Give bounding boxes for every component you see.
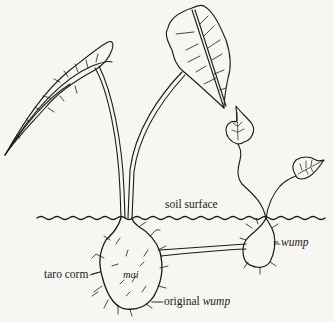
mai-label: mai bbox=[123, 270, 139, 281]
original-wump-term: wump bbox=[203, 295, 230, 307]
soil-surface-label: soil surface bbox=[165, 199, 218, 211]
taro-corm-label: taro corm bbox=[44, 269, 88, 281]
wump-label: wump bbox=[281, 237, 308, 249]
original-wump-label: original wump bbox=[164, 296, 230, 308]
small-leaf-left bbox=[226, 106, 254, 144]
right-petiole bbox=[128, 72, 182, 218]
soil-line bbox=[37, 217, 325, 220]
taro-corm-leader bbox=[90, 272, 100, 275]
offshoot-stem-right bbox=[266, 176, 296, 218]
stolon bbox=[160, 244, 246, 250]
original-prefix: original bbox=[164, 295, 203, 307]
taro-diagram: soil surface taro corm mai original wump… bbox=[0, 0, 334, 322]
taro-corm bbox=[100, 218, 162, 309]
offshoot-stem-left bbox=[238, 144, 266, 218]
